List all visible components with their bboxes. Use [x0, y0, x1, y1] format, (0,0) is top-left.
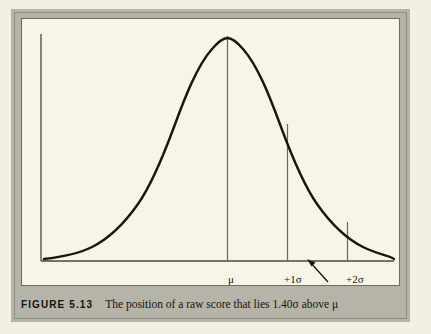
figure-frame: μ +1σ +2σ +1.40σ FIGURE 5.13 The positio… [11, 9, 410, 322]
figure-caption: FIGURE 5.13 The position of a raw score … [21, 293, 400, 315]
figure-root: μ +1σ +2σ +1.40σ FIGURE 5.13 The positio… [0, 0, 431, 334]
raw-score-arrow [307, 259, 328, 282]
normal-distribution-curve [44, 38, 394, 259]
axis-tick-label-mean: μ [228, 274, 234, 285]
axis-tick-label-sigma1: +1σ [284, 274, 302, 285]
normal-curve-chart [22, 19, 399, 285]
axis-tick-label-sigma2: +2σ [346, 274, 364, 285]
plot-panel: μ +1σ +2σ +1.40σ [21, 18, 400, 286]
figure-caption-text: The position of a raw score that lies 1.… [105, 298, 338, 310]
figure-number: FIGURE 5.13 [21, 299, 93, 310]
